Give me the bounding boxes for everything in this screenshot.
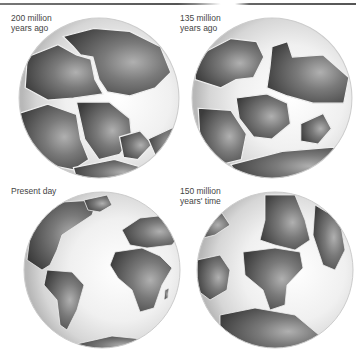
landmass-madagascar [164, 288, 169, 300]
globe-present [22, 190, 182, 350]
top-rule [0, 3, 356, 5]
globe-150future [195, 190, 355, 350]
globe-200mya [17, 16, 181, 180]
globe-135mya [190, 16, 354, 180]
